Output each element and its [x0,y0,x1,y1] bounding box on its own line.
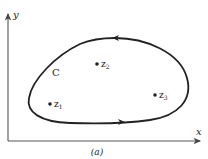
x-axis-label: x [196,126,202,137]
contour-c: C [29,35,189,125]
point-label: z3 [159,90,168,101]
point-label: z2 [101,59,110,70]
contour-label: C [52,67,60,78]
point-dot [153,93,157,97]
point-z1: z1 [48,99,62,110]
point-z3: z3 [153,90,168,101]
figure-caption: (a) [91,147,104,157]
point-z2: z2 [95,59,110,70]
point-label: z1 [54,99,63,110]
y-axis-label: y [12,9,19,20]
point-dot [95,62,99,66]
x-axis: x [8,126,202,141]
contour-diagram: y x C z2 z1 z3 (a) [0,0,208,159]
point-dot [48,102,52,106]
y-axis: y [8,9,19,141]
